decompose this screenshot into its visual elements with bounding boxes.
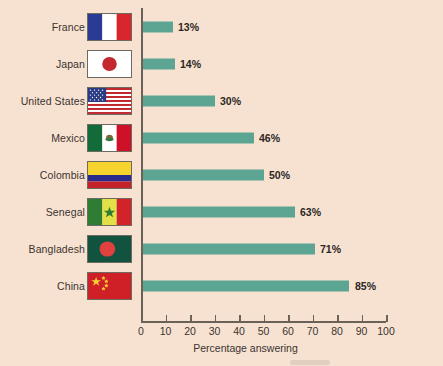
category-label: Mexico bbox=[51, 132, 85, 144]
category-label: Bangladesh bbox=[29, 243, 85, 255]
flag-senegal-icon bbox=[87, 198, 132, 226]
x-axis-tick-label: 80 bbox=[331, 325, 343, 337]
x-axis-tick-label: 100 bbox=[377, 325, 395, 337]
bar-value-label: 14% bbox=[180, 58, 201, 70]
bar-value-label: 85% bbox=[355, 280, 376, 292]
chart-row: China 85% bbox=[0, 267, 443, 304]
x-axis-tick bbox=[362, 315, 364, 322]
bar-value-label: 46% bbox=[259, 132, 280, 144]
chart-row: Mexico 46% bbox=[0, 119, 443, 156]
x-axis-tick-label: 90 bbox=[356, 325, 368, 337]
x-axis-tick bbox=[313, 315, 315, 322]
flag-united-states-icon bbox=[87, 87, 132, 115]
x-axis-tick bbox=[141, 315, 143, 322]
x-axis-title: Percentage answering bbox=[0, 342, 443, 354]
bar-chart: France 13% Japan 14% United States bbox=[0, 0, 443, 366]
category-label: France bbox=[52, 21, 85, 33]
x-axis-tick bbox=[215, 315, 217, 322]
bar bbox=[141, 58, 175, 69]
x-axis-tick bbox=[386, 315, 388, 322]
bar-value-label: 71% bbox=[320, 243, 341, 255]
x-axis-tick-label: 50 bbox=[258, 325, 270, 337]
category-label: Colombia bbox=[40, 169, 85, 181]
flag-colombia-icon bbox=[87, 161, 132, 189]
x-axis-tick bbox=[190, 315, 192, 322]
bar bbox=[141, 132, 254, 143]
category-label: Japan bbox=[56, 58, 85, 70]
flag-japan-icon bbox=[87, 50, 132, 78]
chart-row: Senegal 63% bbox=[0, 193, 443, 230]
chart-row: Colombia 50% bbox=[0, 156, 443, 193]
bar bbox=[141, 95, 215, 106]
bar bbox=[141, 280, 349, 291]
bar-value-label: 30% bbox=[220, 95, 241, 107]
x-axis-tick bbox=[337, 315, 339, 322]
x-axis-tick-label: 70 bbox=[307, 325, 319, 337]
bar-value-label: 13% bbox=[178, 21, 199, 33]
flag-mexico-icon bbox=[87, 124, 132, 152]
flag-china-icon bbox=[87, 272, 132, 300]
category-label: Senegal bbox=[46, 206, 85, 218]
chart-row: Bangladesh 71% bbox=[0, 230, 443, 267]
bar-value-label: 63% bbox=[300, 206, 321, 218]
x-axis-tick-label: 60 bbox=[282, 325, 294, 337]
bar bbox=[141, 169, 264, 180]
x-axis-tick-label: 0 bbox=[138, 325, 144, 337]
category-label: United States bbox=[21, 95, 85, 107]
scan-artifact bbox=[290, 360, 330, 365]
x-axis-tick-label: 10 bbox=[160, 325, 172, 337]
category-label: China bbox=[57, 280, 85, 292]
y-axis-line bbox=[141, 8, 143, 321]
bar bbox=[141, 243, 315, 254]
bar bbox=[141, 206, 295, 217]
bar-value-label: 50% bbox=[269, 169, 290, 181]
chart-row: France 13% bbox=[0, 8, 443, 45]
flag-france-icon bbox=[87, 13, 132, 41]
x-axis-tick-label: 20 bbox=[184, 325, 196, 337]
x-axis-tick bbox=[239, 315, 241, 322]
bar bbox=[141, 21, 173, 32]
x-axis-tick bbox=[264, 315, 266, 322]
chart-row: Japan 14% bbox=[0, 45, 443, 82]
flag-bangladesh-icon bbox=[87, 235, 132, 263]
x-axis-tick bbox=[288, 315, 290, 322]
x-axis-tick-label: 30 bbox=[209, 325, 221, 337]
chart-row: United States bbox=[0, 82, 443, 119]
x-axis-tick-label: 40 bbox=[233, 325, 245, 337]
x-axis-tick bbox=[166, 315, 168, 322]
